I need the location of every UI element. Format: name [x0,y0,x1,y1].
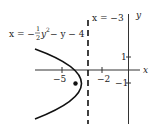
directrix-label: x = −3 [92,13,124,23]
svg-text:2: 2 [36,34,40,42]
svg-text:1: 1 [36,25,40,33]
x-axis-label: x [143,65,148,75]
tick-label-minus1: −1 [115,78,128,88]
focus-point [73,81,77,85]
tick-label-minus5: −5 [53,74,67,84]
tick-label-1: 1 [121,52,127,62]
tick-label-minus2: −2 [97,74,110,84]
y-axis-label: y [135,10,142,20]
svg-text:− y − 4: − y − 4 [50,29,85,39]
graph: y x −5 −2 1 −1 x = −3 x = − 1 2 y 2 − y … [0,0,158,129]
svg-text:x = −: x = − [9,29,35,39]
equation-label: x = − 1 2 y 2 − y − 4 [9,25,85,42]
